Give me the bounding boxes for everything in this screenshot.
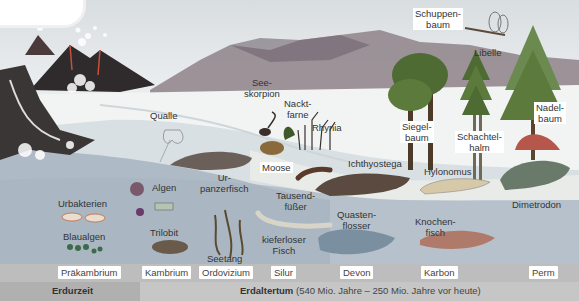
label-kieferloser-fisch: kieferloser Fisch [262,234,306,256]
label-schuppenbaum: Schuppen- baum [413,8,463,30]
label-dimetrodon: Dimetrodon [512,199,561,210]
era-erdaltertum-name: Erdaltertum [240,285,293,296]
period-perm: Perm [529,266,558,279]
label-urbakterien: Urbakterien [58,198,107,209]
libelle-insect [465,12,508,35]
label-schachtelhalm: Schachtel- halm [455,131,504,153]
period-silur: Silur [271,266,296,279]
era-erdaltertum-range: (540 Mio. Jahre – 250 Mio. Jahre vor heu… [293,285,480,296]
era-erdaltertum-label: Erdaltertum (540 Mio. Jahre – 250 Mio. J… [240,285,481,296]
label-hylonomus: Hylonomus [424,166,472,177]
label-blaualgen: Blaualgen [63,231,105,242]
label-nadelbaum: Nadel- baum [534,102,566,124]
label-ichthyostega: Ichthyostega [348,158,402,169]
era-erdurzeit-label: Erdurzeit [52,285,93,296]
period-kambrium: Kambrium [142,266,191,279]
label-tausendfuesser: Tausend- füßer [276,190,315,212]
label-siegelbaum: Siegel- baum [400,121,434,143]
label-moose: Moose [260,162,293,173]
period-devon: Devon [340,266,373,279]
label-seeskorpion: See- skorpion [244,77,280,99]
period-praekambrium: Präkambrium [58,266,121,279]
label-qualle: Qualle [150,110,177,121]
period-karbon: Karbon [421,266,458,279]
label-algen: Algen [152,182,176,193]
label-knochenfisch: Knochen- fisch [415,216,456,238]
period-ordovizium: Ordovizium [199,266,253,279]
evolution-illustration: Qualle See- skorpion Nackt- farne Rhynia… [0,0,579,301]
label-rhynia: Rhynia [312,122,342,133]
page-corner-tab [0,0,86,28]
label-libelle: Libelle [474,47,501,58]
label-nacktfarne: Nackt- farne [284,98,311,120]
label-seetang: Seetang [207,253,242,264]
label-urpanzerfisch: Ur- panzerfisch [200,172,249,194]
label-trilobit: Trilobit [150,227,178,238]
label-quastenflosser: Quasten- flosser [337,209,376,231]
